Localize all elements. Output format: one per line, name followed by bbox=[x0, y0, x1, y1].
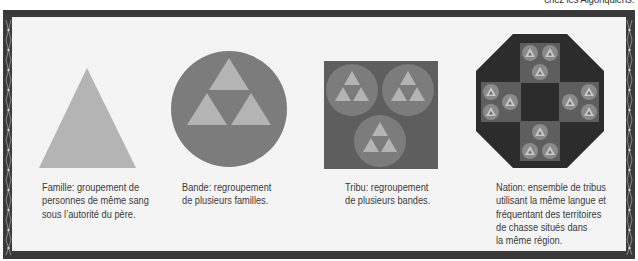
bande-circle-3 bbox=[354, 115, 406, 167]
bande-circle-figure bbox=[170, 50, 290, 170]
tribu-caption: Tribu: regroupement de plusieurs bandes. bbox=[345, 181, 430, 208]
decorative-frame: Famille: groupement de personnes de même… bbox=[3, 10, 635, 259]
partial-top-caption: chez les Algonquiens. bbox=[544, 0, 634, 5]
tribu-square-figure bbox=[324, 61, 438, 169]
nation-caption: Nation: ensemble de tribus utilisant la … bbox=[496, 181, 606, 247]
bande-circle-2 bbox=[382, 64, 434, 116]
famille-caption: Famille: groupement de personnes de même… bbox=[42, 181, 149, 221]
content-panel: Famille: groupement de personnes de même… bbox=[12, 17, 626, 251]
bande-circle-1 bbox=[326, 64, 378, 116]
famille-triangle-figure bbox=[38, 67, 138, 169]
bande-caption: Bande: regroupement de plusieurs famille… bbox=[182, 181, 271, 208]
nation-octagon-figure bbox=[475, 33, 605, 169]
